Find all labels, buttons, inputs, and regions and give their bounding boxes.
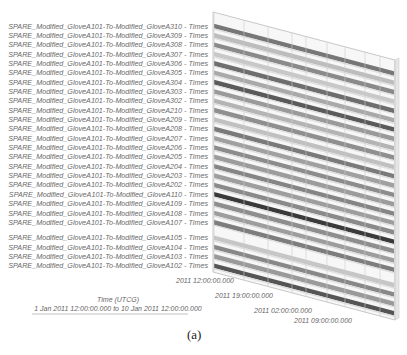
x-axis-range: 1 Jan 2011 12:00:00.000 to 10 Jan 2011 1… [34,305,202,312]
row-label: SPARE_Modified_GloveA101-To-Modified_Glo… [8,218,208,227]
row-label: SPARE_Modified_GloveA101-To-Modified_Glo… [8,96,208,105]
row-label: SPARE_Modified_GloveA101-To-Modified_Glo… [8,59,208,68]
row-label: SPARE_Modified_GloveA101-To-Modified_Glo… [8,143,208,152]
figure-caption: (a) [187,327,201,343]
row-label: SPARE_Modified_GloveA101-To-Modified_Glo… [8,68,208,77]
row-label: SPARE_Modified_GloveA101-To-Modified_Glo… [8,124,208,133]
row-label: SPARE_Modified_GloveA101-To-Modified_Glo… [8,134,208,143]
row-label: SPARE_Modified_GloveA101-To-Modified_Glo… [8,40,208,49]
x-tick-label: 2011 19:00:00.000 [214,292,273,299]
row-label: SPARE_Modified_GloveA101-To-Modified_Glo… [8,233,208,242]
row-label: SPARE_Modified_GloveA101-To-Modified_Glo… [8,22,208,31]
row-label: SPARE_Modified_GloveA101-To-Modified_Glo… [8,87,208,96]
row-label: SPARE_Modified_GloveA101-To-Modified_Glo… [8,171,208,180]
x-axis-title: Time (UTCG) [97,296,139,304]
row-label: SPARE_Modified_GloveA101-To-Modified_Glo… [8,209,208,218]
x-tick-label: 2011 09:00:00.000 [293,317,352,324]
row-label: SPARE_Modified_GloveA101-To-Modified_Glo… [8,152,208,161]
row-label: SPARE_Modified_GloveA101-To-Modified_Glo… [8,243,208,252]
row-label: SPARE_Modified_GloveA101-To-Modified_Glo… [8,78,208,87]
row-label: SPARE_Modified_GloveA101-To-Modified_Glo… [8,50,208,59]
x-tick-label: 2011 12:00:00.000 [175,277,234,284]
row-label: SPARE_Modified_GloveA101-To-Modified_Glo… [8,162,208,171]
x-tick-label: 2011 02:00:00.000 [253,307,312,314]
timeline-chart: SPARE_Modified_GloveA101-To-Modified_Glo… [0,0,407,355]
row-label: SPARE_Modified_GloveA101-To-Modified_Glo… [8,252,208,261]
row-label: SPARE_Modified_GloveA101-To-Modified_Glo… [8,115,208,124]
row-label: SPARE_Modified_GloveA101-To-Modified_Glo… [8,261,208,270]
row-label: SPARE_Modified_GloveA101-To-Modified_Glo… [8,106,208,115]
row-labels: SPARE_Modified_GloveA101-To-Modified_Glo… [8,22,208,271]
row-label: SPARE_Modified_GloveA101-To-Modified_Glo… [8,199,208,208]
row-label: SPARE_Modified_GloveA101-To-Modified_Glo… [8,180,208,189]
row-label: SPARE_Modified_GloveA101-To-Modified_Glo… [8,31,208,40]
row-label: SPARE_Modified_GloveA101-To-Modified_Glo… [9,190,209,199]
